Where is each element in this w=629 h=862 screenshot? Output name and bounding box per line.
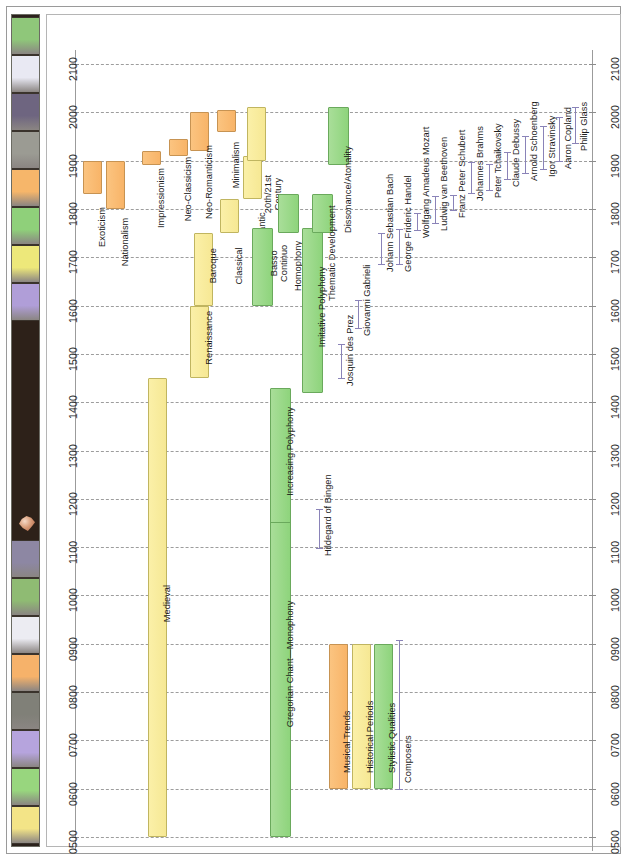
composer-lifespan-line[interactable] (319, 509, 320, 548)
composer-lifespan-cap (522, 173, 529, 174)
axis-label-left-1100: 1100 (67, 541, 79, 564)
composer-lifespan-cap (572, 143, 579, 144)
axis-label-right-1200: 1200 (609, 492, 621, 516)
swatch-white-2 (12, 616, 39, 654)
composer-lifespan-cap (540, 126, 547, 127)
composer-lifespan-cap (450, 195, 457, 196)
axis-label-left-1400: 1400 (67, 395, 79, 419)
composer-lifespan-line[interactable] (489, 164, 490, 190)
swatch-yellow-2 (12, 806, 39, 844)
axis-label-left-1500: 1500 (67, 347, 79, 371)
timeline-bar-label: Classical (234, 231, 244, 301)
tick-right-0800 (589, 692, 596, 693)
composer-lifespan-line[interactable] (341, 344, 342, 378)
composer-lifespan-cap (338, 344, 345, 345)
timeline-bar[interactable] (247, 107, 266, 160)
composer-label: Wolfgang Amadeus Mozart (421, 127, 431, 238)
timeline-bar-label: Renaissance (204, 302, 214, 374)
tick-right-1900 (589, 161, 596, 162)
axis-label-left-1600: 1600 (67, 298, 79, 322)
gridline-0500 (76, 837, 592, 838)
composer-lifespan-cap (316, 548, 323, 549)
legend-composer-cap (396, 640, 403, 641)
timeline-bar-label: Neo-Romanticism (204, 149, 214, 219)
composer-lifespan-cap (432, 223, 439, 224)
tick-right-1200 (589, 499, 596, 500)
tick-right-1300 (589, 451, 596, 452)
timeline-bar[interactable] (106, 161, 125, 209)
axis-label-left-0900: 0900 (67, 637, 79, 661)
composer-lifespan-cap (432, 196, 439, 197)
composer-lifespan-line[interactable] (471, 162, 472, 193)
axis-label-right-0700: 0700 (609, 733, 621, 757)
tick-right-0600 (589, 789, 596, 790)
timeline-bar[interactable] (220, 199, 239, 233)
timeline-bar[interactable] (83, 161, 102, 195)
tick-right-1700 (589, 257, 596, 258)
title-band (12, 321, 39, 540)
composer-lifespan-cap (556, 161, 563, 162)
swatch-lavender-2 (12, 730, 39, 768)
legend-label-style: Stylistic Qualities (387, 702, 397, 772)
swatch-white (12, 55, 39, 93)
axis-label-right-0800: 0800 (609, 685, 621, 709)
composer-lifespan-cap (504, 179, 511, 180)
title-strip: Historical Overview (11, 14, 40, 847)
composer-lifespan-line[interactable] (381, 233, 382, 264)
composer-lifespan-cap (522, 136, 529, 137)
composer-label: Hildegard of Bingen (323, 474, 333, 556)
composer-label: Ludwig van Beethoven (439, 137, 449, 231)
tick-right-0700 (589, 740, 596, 741)
composer-lifespan-cap (414, 213, 421, 214)
tick-right-1800 (589, 209, 596, 210)
axis-label-right-1000: 1000 (609, 588, 621, 612)
timeline-bar-label: Medieval (162, 374, 172, 833)
axis-label-right-1300: 1300 (609, 443, 621, 467)
composer-lifespan-cap (355, 300, 362, 301)
axis-label-left-1200: 1200 (67, 492, 79, 516)
axis-label-left-1700: 1700 (67, 250, 79, 274)
axis-label-right-1900: 1900 (609, 153, 621, 177)
axis-label-left-1900: 1900 (67, 153, 79, 177)
composer-lifespan-cap (316, 509, 323, 510)
timeline-bar-label: BassoContinuo (269, 224, 289, 301)
timeline-bar-label: Thematic Development (327, 231, 337, 301)
axis-label-right-2100: 2100 (609, 57, 621, 81)
timeline-bar-label: Neo-Classicism (183, 154, 193, 224)
gridline-1600 (76, 306, 592, 307)
composer-lifespan-cap (378, 233, 385, 234)
composer-lifespan-cap (355, 328, 362, 329)
composer-label: Igor Stravinsky (547, 116, 557, 177)
swatch-green-3 (12, 578, 39, 616)
swatch-lavender (12, 283, 39, 321)
composer-lifespan-line[interactable] (507, 152, 508, 179)
timeline-bar[interactable] (217, 110, 236, 132)
composer-lifespan-line[interactable] (575, 107, 576, 142)
composer-lifespan-line[interactable] (453, 195, 454, 210)
timeline-bar-label: Increasing Polyphony (285, 384, 295, 519)
axis-label-right-0900: 0900 (609, 637, 621, 661)
swatch-purple-gray-2 (12, 540, 39, 578)
tick-right-1600 (589, 306, 596, 307)
swatch-gray (12, 131, 39, 169)
composer-lifespan-cap (378, 264, 385, 265)
composer-lifespan-line[interactable] (358, 300, 359, 328)
composer-lifespan-line[interactable] (399, 229, 400, 265)
axis-label-left-0500: 0500 (67, 830, 79, 854)
timeline-bar-label: Baroque (208, 229, 218, 301)
composer-lifespan-line[interactable] (525, 136, 526, 173)
composer-lifespan-line[interactable] (543, 126, 544, 169)
page-title: Historical Overview (36, 362, 40, 522)
historical-overview-timeline-page: Historical Overview 21002000190018001700… (0, 0, 629, 862)
composer-lifespan-cap (486, 164, 493, 165)
axis-label-right-2000: 2000 (609, 105, 621, 129)
timeline-bar[interactable] (243, 156, 262, 199)
composer-lifespan-line[interactable] (559, 117, 560, 160)
timeline-bar[interactable] (278, 194, 299, 233)
axis-label-right-0500: 0500 (609, 830, 621, 854)
axis-label-left-1300: 1300 (67, 443, 79, 467)
composer-lifespan-line[interactable] (435, 196, 436, 224)
composer-lifespan-line[interactable] (417, 213, 418, 230)
legend-label-trend: Musical Trends (342, 710, 352, 773)
swatch-orange (12, 169, 39, 207)
